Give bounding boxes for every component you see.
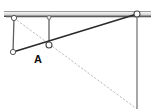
joint-top-right-icon [134,11,140,17]
label-a: A [34,53,42,65]
joint-center-a-icon [46,42,52,48]
link-left-vertical [13,18,14,52]
guide-diagonal-dotted-icon [14,18,137,109]
guide-lines-group [14,18,137,109]
labels-group: A [34,53,42,65]
joint-top-left-icon [11,15,16,20]
joint-bottom-left-icon [10,49,15,54]
mechanism-diagram: A [0,0,154,109]
figure-canvas: A [0,0,154,109]
link-main-diagonal [13,14,137,52]
joint-top-mid-icon [47,16,51,20]
